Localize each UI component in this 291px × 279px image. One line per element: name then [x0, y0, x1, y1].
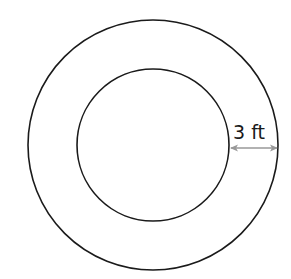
ring-width-label: 3 ft — [233, 121, 265, 143]
outer-circle — [28, 20, 278, 270]
inner-circle — [77, 69, 229, 221]
annulus-diagram: 3 ft — [0, 0, 291, 279]
